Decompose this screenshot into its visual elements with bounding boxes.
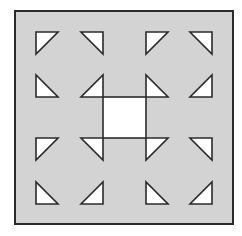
center-white-square bbox=[103, 97, 146, 138]
diagram-svg bbox=[0, 0, 242, 236]
quilt-diagram bbox=[0, 0, 242, 236]
